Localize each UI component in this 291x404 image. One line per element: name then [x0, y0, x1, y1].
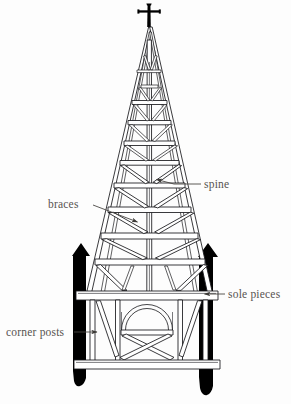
brace-i-left-inner	[122, 266, 134, 290]
corner-posts-label: corner posts	[6, 326, 65, 339]
sole-pieces-label: sole pieces	[228, 288, 281, 301]
collar-beam-apex-b	[137, 70, 161, 73]
collar-beam-2	[128, 121, 171, 125]
belfry-arch-transom	[121, 330, 173, 335]
cross-finial-arm	[138, 10, 160, 12]
cross-finial-arm-tip-right	[159, 9, 161, 13]
rafter-left-outer	[87, 27, 152, 293]
belfry-sill-beam	[74, 360, 220, 369]
spine-group	[147, 40, 152, 293]
spire-frame-diagram: spine braces sole pieces corner posts	[0, 0, 291, 404]
brace-h-right	[155, 239, 200, 260]
figure-canvas: spine braces sole pieces corner posts	[0, 0, 291, 404]
collar-beam-apex-a	[141, 85, 158, 88]
brace-g-right	[155, 212, 194, 233]
cross-finial-arm-tip-left	[137, 9, 139, 13]
belfry-arch-inner	[126, 309, 169, 331]
collar-beam-1	[132, 101, 167, 105]
spine-label: spine	[204, 178, 229, 191]
cross-finial-group	[137, 3, 160, 27]
braces-label: braces	[48, 198, 79, 210]
brace-i-right-inner	[165, 266, 176, 290]
brace-i-left	[96, 265, 127, 291]
cross-finial-shaft	[147, 4, 151, 27]
rafter-right-outer	[150, 27, 213, 293]
collar-beam-7	[101, 233, 198, 239]
belfry-group	[74, 300, 220, 369]
cross-finial-top-tip	[146, 3, 151, 5]
belfry-stile-left	[90, 300, 95, 362]
sole-pieces-group	[76, 291, 218, 300]
sole-piece-beam	[76, 291, 218, 300]
collar-beam-6	[108, 207, 191, 213]
collar-beam-3	[124, 141, 175, 146]
collar-beam-4	[120, 161, 179, 166]
collar-beam-8	[95, 259, 205, 265]
brace-f-right	[154, 188, 188, 208]
belfry-stile-right	[203, 300, 208, 362]
